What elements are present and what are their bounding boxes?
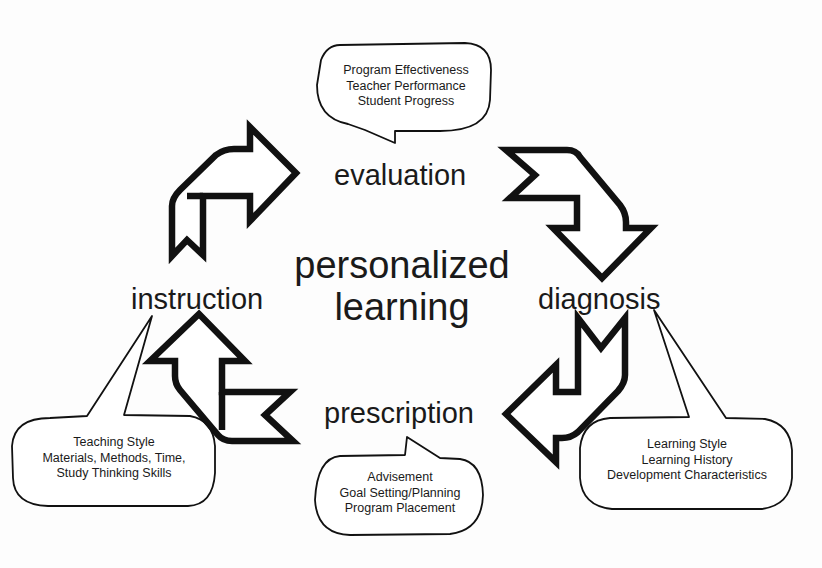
prescription-callout-text: Advisement Goal Setting/Planning Program…: [318, 470, 482, 517]
stage-label-instruction: instruction: [131, 285, 263, 314]
callout-line: Development Characteristics: [582, 468, 792, 484]
diagnosis-callout-text: Learning Style Learning History Developm…: [582, 437, 792, 484]
callout-line: Learning Style: [582, 437, 792, 453]
arrow-right-down-icon: [506, 150, 651, 278]
arrow-left-up-icon: [150, 314, 293, 441]
instruction-callout-text: Teaching Style Materials, Methods, Time,…: [14, 435, 214, 482]
callout-line: Teaching Style: [14, 435, 214, 451]
stage-label-evaluation: evaluation: [334, 161, 466, 190]
callout-line: Program Placement: [318, 501, 482, 517]
center-title-line1: personalized: [282, 244, 522, 286]
callout-line: Student Progress: [324, 94, 488, 110]
center-title: personalized learning: [282, 244, 522, 328]
stage-label-diagnosis: diagnosis: [538, 285, 661, 314]
callout-line: Study Thinking Skills: [14, 466, 214, 482]
callout-line: Learning History: [582, 453, 792, 469]
personalized-learning-cycle-diagram: evaluation diagnosis prescription instru…: [0, 0, 822, 568]
stage-label-prescription: prescription: [324, 399, 474, 428]
arrow-up-right-icon: [172, 127, 296, 256]
center-title-line2: learning: [282, 286, 522, 328]
callout-line: Program Effectiveness: [324, 63, 488, 79]
evaluation-callout-text: Program Effectiveness Teacher Performanc…: [324, 63, 488, 110]
callout-line: Goal Setting/Planning: [318, 486, 482, 502]
callout-line: Teacher Performance: [324, 79, 488, 95]
callout-line: Materials, Methods, Time,: [14, 451, 214, 467]
callout-line: Advisement: [318, 470, 482, 486]
